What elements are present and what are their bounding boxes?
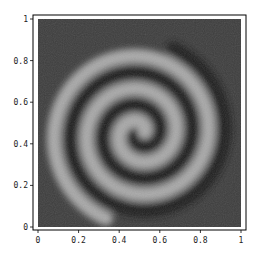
density-image	[38, 19, 241, 227]
x-tick-label: 0.2	[71, 236, 86, 245]
y-tick-label: 0.4	[14, 140, 29, 149]
x-tick-label: 0.4	[112, 236, 127, 245]
y-tick-label: 1	[23, 15, 28, 24]
y-tick-label: 0	[23, 223, 28, 232]
x-tick-label: 0.8	[193, 236, 208, 245]
y-tick-label: 0.6	[14, 98, 29, 107]
y-tick-label: 0.2	[14, 181, 29, 190]
x-tick-label: 0	[36, 236, 41, 245]
y-tick-label: 0.8	[14, 57, 29, 66]
x-tick-label: 0.6	[153, 236, 168, 245]
x-tick-label: 1	[239, 236, 244, 245]
spiral-density-plot: 00.20.40.60.8100.20.40.60.81	[0, 0, 258, 257]
